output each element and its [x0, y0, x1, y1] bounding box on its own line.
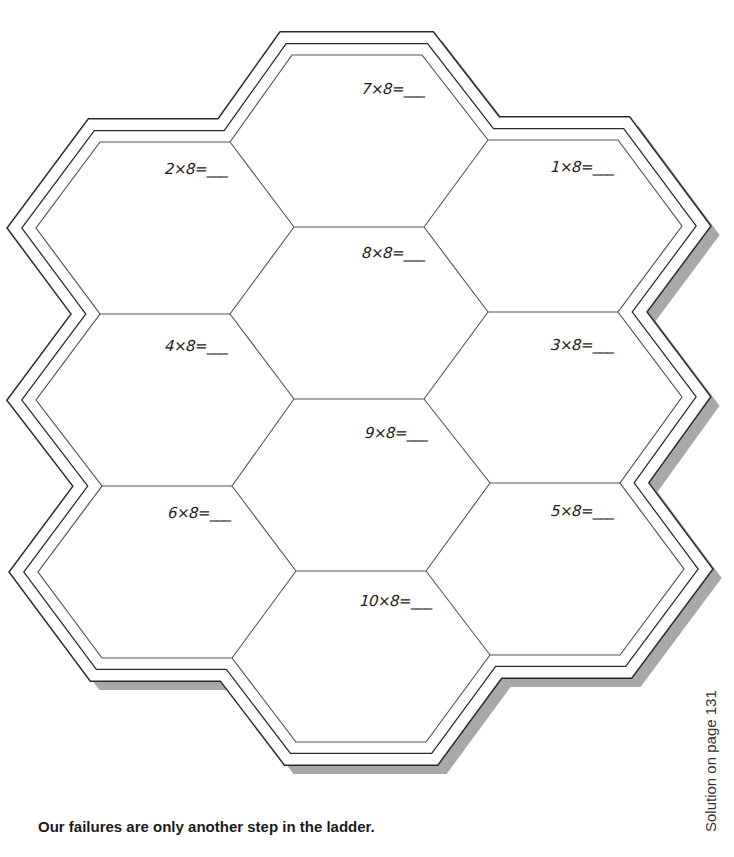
problem-10x8[interactable]: 10×8=___: [359, 592, 433, 610]
problem-6x8[interactable]: 6×8=___: [167, 504, 231, 522]
problem-4x8[interactable]: 4×8=___: [164, 337, 228, 355]
solution-page-note: Solution on page 131: [702, 690, 719, 832]
problem-1x8[interactable]: 1×8=___: [550, 158, 614, 176]
problem-5x8[interactable]: 5×8=___: [550, 502, 614, 520]
problem-9x8[interactable]: 9×8=___: [364, 424, 428, 442]
problem-3x8[interactable]: 3×8=___: [550, 336, 614, 354]
problem-2x8[interactable]: 2×8=___: [164, 160, 228, 178]
hexagon-puzzle: [0, 0, 734, 800]
motivational-quote: Our failures are only another step in th…: [38, 818, 375, 835]
problem-7x8[interactable]: 7×8=___: [361, 80, 425, 98]
problem-8x8[interactable]: 8×8=___: [361, 244, 425, 262]
